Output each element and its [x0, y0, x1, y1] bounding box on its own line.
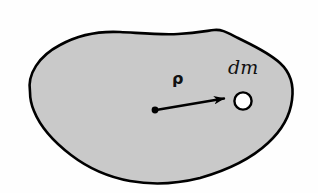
vector-origin-dot [152, 107, 159, 114]
rigid-body-blob [30, 30, 293, 184]
figure-root: dm ρ [0, 0, 318, 193]
mass-element-marker [234, 92, 251, 109]
diagram-canvas [0, 0, 318, 193]
